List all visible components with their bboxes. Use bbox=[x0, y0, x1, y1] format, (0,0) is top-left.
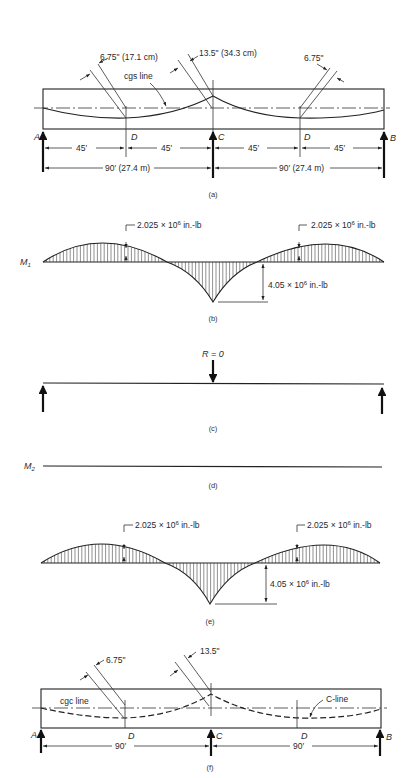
svg-text:45′: 45′ bbox=[161, 143, 172, 153]
pos-moment-label-right: 2.025 × 106 in.-lb bbox=[311, 220, 376, 230]
reaction-label: R = 0 bbox=[202, 349, 224, 359]
support-label-a: A bbox=[33, 132, 40, 142]
pos-moment-label-left: 2.025 × 106 in.-lb bbox=[137, 220, 202, 230]
beam-outline bbox=[43, 89, 384, 129]
m2-label: M2 bbox=[24, 461, 36, 472]
panel-d-secondary-moment: M2 (d) bbox=[24, 461, 382, 490]
svg-text:90′ (27.4 m): 90′ (27.4 m) bbox=[105, 163, 150, 173]
point-label-d-right-f: D bbox=[301, 731, 308, 741]
support-label-b-f: B bbox=[386, 732, 392, 742]
svg-text:45′: 45′ bbox=[76, 143, 87, 153]
pos-moment-label-right-e: 2.025 × 106 in.-lb bbox=[307, 520, 372, 530]
m1-label: M1 bbox=[20, 257, 31, 268]
caption-b: (b) bbox=[208, 314, 218, 323]
span-right-f: 90′ bbox=[293, 741, 304, 751]
panel-b-moment-diagram: M1 2.025 × 106 in.-lb 2.025 × 106 in.-lb… bbox=[20, 220, 384, 323]
cgs-line-label: cgs line bbox=[124, 71, 153, 81]
svg-text:45′: 45′ bbox=[248, 143, 259, 153]
point-label-d-left: D bbox=[131, 132, 138, 142]
caption-d: (d) bbox=[208, 481, 218, 490]
neg-moment-label-e: 4.05 × 106 in.-lb bbox=[270, 579, 330, 589]
point-label-d-right: D bbox=[304, 132, 311, 142]
tendon-profile bbox=[43, 96, 384, 118]
panel-f: 6.75" 13.5" cgc line C-line A C B D D 90… bbox=[30, 646, 392, 772]
svg-text:45′: 45′ bbox=[334, 143, 345, 153]
support-label-b: B bbox=[390, 133, 396, 143]
svg-text:90′ (27.4 m): 90′ (27.4 m) bbox=[279, 163, 324, 173]
span-left-f: 90′ bbox=[115, 741, 126, 751]
neg-moment-label: 4.05 × 106 in.-lb bbox=[268, 280, 328, 290]
m2-zero-line bbox=[43, 466, 382, 467]
point-label-d-left-f: D bbox=[128, 731, 135, 741]
pos-moment-label-left-e: 2.025 × 106 in.-lb bbox=[135, 520, 200, 530]
c-line-label: C-line bbox=[326, 694, 348, 704]
ecc-label-d-right: 6.75" bbox=[304, 53, 324, 63]
ecc-label-d-f: 6.75" bbox=[106, 655, 126, 665]
caption-a: (a) bbox=[208, 190, 218, 199]
panel-c-reactions: R = 0 (c) bbox=[43, 349, 384, 433]
cgc-line-label: cgc line bbox=[60, 696, 89, 706]
panel-a: 6.75" (17.1 cm) 13.5" (34.3 cm) 6.75" cg… bbox=[33, 48, 396, 199]
support-label-c: C bbox=[218, 132, 225, 142]
panel-e-moment-diagram: 2.025 × 106 in.-lb 2.025 × 106 in.-lb 4.… bbox=[41, 520, 380, 626]
ecc-label-d-left: 6.75" (17.1 cm) bbox=[100, 52, 158, 62]
ecc-label-c-f: 13.5" bbox=[200, 646, 220, 656]
caption-c: (c) bbox=[209, 424, 218, 433]
caption-f: (f) bbox=[206, 763, 214, 772]
support-label-a-f: A bbox=[30, 730, 37, 740]
caption-e: (e) bbox=[205, 617, 215, 626]
support-label-c-f: C bbox=[216, 731, 223, 741]
prestressed-beam-diagram: 6.75" (17.1 cm) 13.5" (34.3 cm) 6.75" cg… bbox=[0, 0, 413, 778]
ecc-label-c: 13.5" (34.3 cm) bbox=[199, 48, 257, 58]
beam-line bbox=[43, 383, 384, 384]
